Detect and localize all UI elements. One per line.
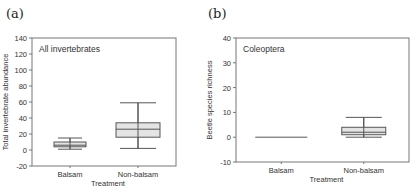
x-axis-label: Treatment: [310, 175, 345, 184]
y-tick-label: 20: [223, 84, 231, 93]
plot-title: Coleoptera: [243, 44, 285, 54]
chart-b-box-plot: -10010203040BalsamNon-balsamTreatmentBee…: [0, 0, 418, 191]
x-tick-label: Non-balsam: [344, 166, 384, 175]
y-tick-label: -10: [220, 158, 231, 167]
x-tick-label: Balsam: [269, 166, 294, 175]
y-tick-label: 30: [223, 59, 231, 68]
y-tick-label: 10: [223, 108, 231, 117]
plot-frame: [236, 38, 409, 162]
y-tick-label: 0: [227, 133, 231, 142]
y-tick-label: 40: [223, 34, 231, 43]
y-axis-label: Beetle species richness: [205, 60, 214, 139]
